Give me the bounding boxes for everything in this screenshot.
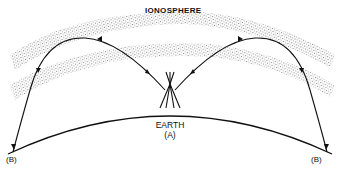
earth-label: EARTH (155, 120, 185, 130)
ionosphere-band-upper (10, 11, 335, 70)
transmitter-label: (A) (155, 130, 185, 140)
antenna-tower-icon (160, 72, 180, 108)
ionosphere-band-lower (10, 43, 335, 100)
ionosphere-label: IONOSPHERE (145, 6, 201, 15)
skywave-diagram: IONOSPHERE EARTH (A) (B) (B) (0, 0, 340, 182)
receiver-right-label: (B) (311, 155, 322, 164)
diagram-canvas (0, 0, 340, 182)
receiver-left-label: (B) (6, 155, 17, 164)
